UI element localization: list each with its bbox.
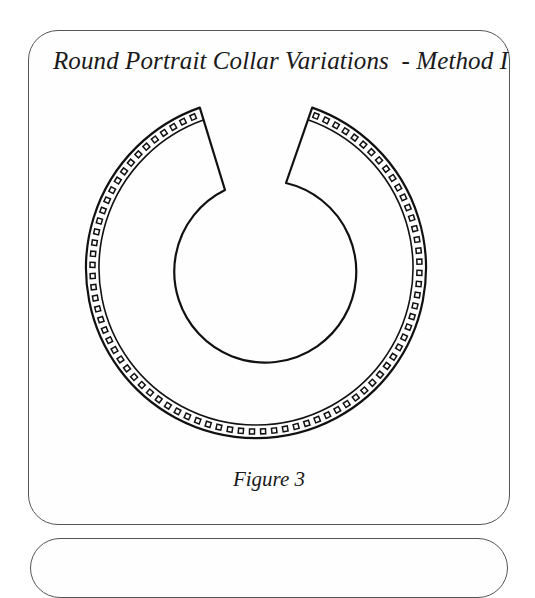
- figure-panel: Round Portrait Collar Variations - Metho…: [28, 30, 510, 525]
- figure-title: Round Portrait Collar Variations - Metho…: [53, 47, 493, 75]
- figure-caption: Figure 3: [29, 467, 509, 492]
- next-figure-panel: [30, 538, 508, 598]
